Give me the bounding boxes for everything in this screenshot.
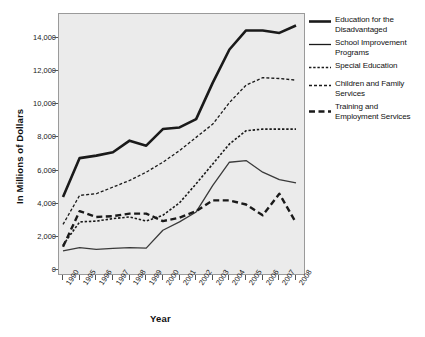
chart-figure: In Millions of Dollars 02,0004,0006,0008… xyxy=(0,0,425,337)
y-tick-label: 12,000 xyxy=(8,66,56,75)
x-tick-mark xyxy=(62,275,63,280)
legend-item: Special Education xyxy=(309,60,423,75)
x-axis-title: Year xyxy=(150,313,171,324)
x-tick-mark xyxy=(95,275,96,280)
y-tick-label: 14,000 xyxy=(8,32,56,41)
legend-swatch-thick-dashed xyxy=(309,104,331,118)
x-tick-mark xyxy=(162,275,163,280)
x-tick-mark xyxy=(212,275,213,280)
plot-area xyxy=(58,13,305,275)
legend-label: Training and Employment Services xyxy=(335,101,423,121)
x-tick-mark xyxy=(145,275,146,280)
y-tick-label: 2,000 xyxy=(8,231,56,240)
series-line xyxy=(63,129,296,245)
legend-item: Training and Employment Services xyxy=(309,101,423,121)
x-tick-mark xyxy=(228,275,229,280)
chart-legend: Education for the DisadvantagedSchool Im… xyxy=(309,14,423,124)
y-tick-label: 0 xyxy=(8,265,56,274)
series-lines xyxy=(59,14,306,276)
x-tick-mark xyxy=(129,275,130,280)
x-tick-mark xyxy=(295,275,296,280)
x-tick-mark xyxy=(179,275,180,280)
series-line xyxy=(63,161,296,251)
x-tick-mark xyxy=(278,275,279,280)
legend-item: Education for the Disadvantaged xyxy=(309,14,423,34)
x-axis-ticks: 1990199519961997199819992000200120022003… xyxy=(58,275,305,335)
x-tick-mark xyxy=(245,275,246,280)
x-tick-mark xyxy=(112,275,113,280)
legend-swatch-thin-solid xyxy=(309,37,331,51)
y-axis-ticks: 02,0004,0006,0008,00010,00012,00014,000 xyxy=(0,13,56,275)
x-tick-mark xyxy=(79,275,80,280)
legend-swatch-dotted xyxy=(309,60,331,74)
legend-swatch-thick-solid xyxy=(309,14,331,28)
y-tick-label: 10,000 xyxy=(8,99,56,108)
legend-label: Education for the Disadvantaged xyxy=(335,14,423,34)
x-tick-mark xyxy=(195,275,196,280)
y-tick-label: 4,000 xyxy=(8,198,56,207)
legend-swatch-thin-dashed xyxy=(309,78,331,92)
legend-label: School Improvement Programs xyxy=(335,37,423,57)
legend-item: Children and Family Services xyxy=(309,78,423,98)
legend-label: Special Education xyxy=(335,60,397,71)
y-tick-label: 6,000 xyxy=(8,165,56,174)
y-tick-label: 8,000 xyxy=(8,132,56,141)
legend-label: Children and Family Services xyxy=(335,78,423,98)
legend-item: School Improvement Programs xyxy=(309,37,423,57)
x-tick-mark xyxy=(262,275,263,280)
